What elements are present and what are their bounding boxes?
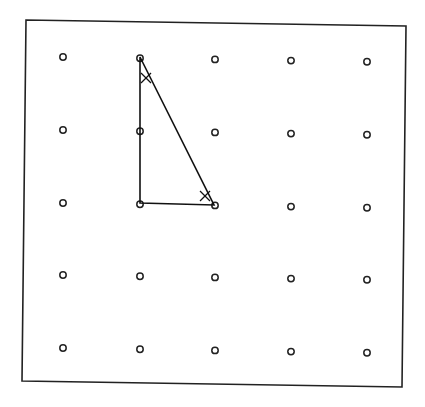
- grid-dot: [364, 132, 370, 138]
- grid-dot: [288, 203, 294, 209]
- angle-marks: [141, 73, 210, 201]
- grid-dot: [212, 56, 218, 62]
- angle-mark-bottom-right: [200, 191, 210, 201]
- grid-dot: [60, 54, 66, 60]
- right-triangle: [140, 57, 214, 205]
- angle-mark-top: [141, 73, 151, 83]
- grid-dot: [137, 346, 143, 352]
- grid-dot: [60, 200, 66, 206]
- grid-dot: [288, 57, 294, 63]
- grid-dot: [60, 345, 66, 351]
- grid-dot: [60, 127, 66, 133]
- grid-dot: [364, 277, 370, 283]
- grid-dot: [288, 130, 294, 136]
- grid-dot: [364, 350, 370, 356]
- grid-dot: [212, 129, 218, 135]
- grid-dots: [60, 54, 370, 356]
- grid-dot: [60, 272, 66, 278]
- grid-dot: [212, 347, 218, 353]
- grid-dot: [137, 273, 143, 279]
- grid-dot: [288, 348, 294, 354]
- grid-dot: [364, 59, 370, 65]
- grid-dot: [212, 274, 218, 280]
- grid-dot: [288, 275, 294, 281]
- grid-dot: [364, 205, 370, 211]
- dot-grid-diagram: [0, 0, 425, 407]
